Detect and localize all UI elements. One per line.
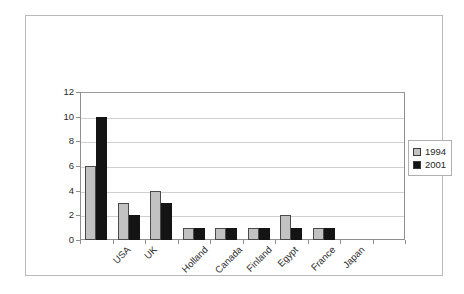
x-axis-labels: USAUKHollandCanadaFinlandEgyptFranceJapa…	[80, 244, 405, 292]
y-axis-tick-label: 8	[69, 136, 74, 146]
y-axis-tick-label: 4	[69, 186, 74, 196]
bar-2001-finland	[226, 228, 237, 240]
bar-series-container	[80, 92, 405, 240]
chart-outer-border: 024681012 USAUKHollandCanadaFinlandEgypt…	[25, 15, 443, 276]
legend-swatch-1994	[413, 148, 421, 156]
bar-1994-usa	[85, 166, 96, 240]
bar-2001-holland	[161, 203, 172, 240]
y-axis-tick-label: 6	[69, 161, 74, 171]
bar-1994-finland	[215, 228, 226, 240]
x-axis-label-canada: Canada	[212, 244, 243, 275]
bar-group	[248, 92, 270, 240]
x-axis-label-uk: UK	[142, 244, 159, 261]
bar-1994-egypt	[248, 228, 259, 240]
x-axis-label-egypt: Egypt	[275, 244, 300, 269]
bar-1994-france	[280, 215, 291, 240]
bar-1994-holland	[150, 191, 161, 240]
bar-2001-egypt	[259, 228, 270, 240]
bar-group	[280, 92, 302, 240]
x-axis-label-holland: Holland	[180, 244, 211, 275]
bar-group	[183, 92, 205, 240]
y-axis-tick-label: 2	[69, 210, 74, 220]
bar-group	[313, 92, 335, 240]
y-axis-tick-label: 12	[63, 87, 74, 97]
bar-2001-usa	[96, 117, 107, 240]
bar-2001-uk	[129, 215, 140, 240]
bar-2001-japan	[324, 228, 335, 240]
y-axis-tick-label: 0	[69, 235, 74, 245]
bar-1994-canada	[183, 228, 194, 240]
bar-group	[150, 92, 172, 240]
legend-label-1994: 1994	[425, 147, 446, 157]
y-axis: 024681012	[51, 78, 80, 254]
bar-1994-uk	[118, 203, 129, 240]
legend-label-2001: 2001	[425, 160, 446, 170]
bar-group	[215, 92, 237, 240]
x-axis-tick-mark	[405, 240, 406, 244]
x-axis-label-usa: USA	[111, 244, 133, 266]
bar-2001-france	[291, 228, 302, 240]
bar-2001-canada	[194, 228, 205, 240]
x-axis-label-japan: Japan	[340, 244, 366, 270]
bar-1994-japan	[313, 228, 324, 240]
y-axis-tick-label: 10	[63, 112, 74, 122]
x-axis-label-france: France	[309, 244, 338, 273]
legend-item: 1994	[413, 145, 446, 158]
bar-group	[118, 92, 140, 240]
legend-item: 2001	[413, 158, 446, 171]
bar-group	[85, 92, 107, 240]
x-axis-label-finland: Finland	[244, 244, 274, 274]
legend-swatch-2001	[413, 161, 421, 169]
chart-legend: 1994 2001	[408, 140, 452, 176]
